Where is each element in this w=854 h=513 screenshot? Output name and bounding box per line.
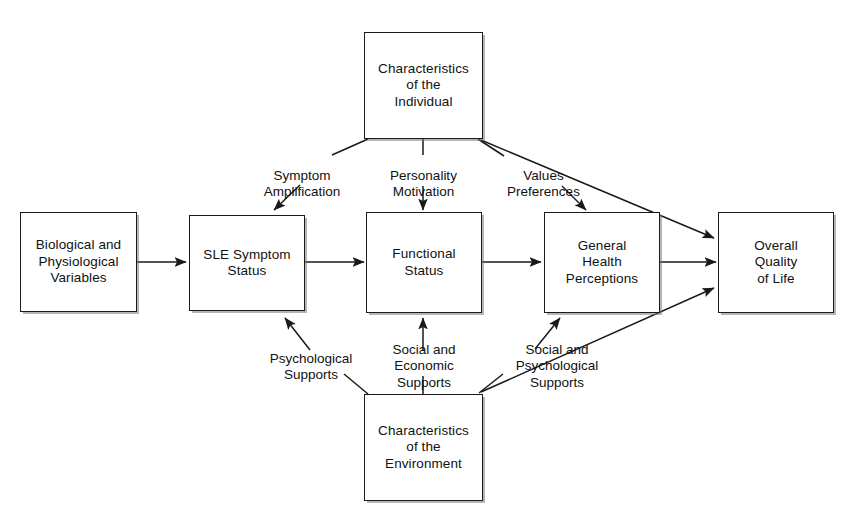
- edge-label-symptom-amplification: Symptom Amplification: [240, 151, 364, 201]
- node-label: Characteristics of the Individual: [375, 61, 472, 111]
- diagram-canvas: Biological and Physiological Variables S…: [0, 0, 854, 513]
- edge-label-social-and-psychological-supports: Social and Psychological Supports: [500, 325, 614, 391]
- node-label: General Health Perceptions: [563, 238, 641, 288]
- edge-label-personality-motivation: Personality Motivation: [370, 151, 477, 201]
- node-label: Overall Quality of Life: [751, 238, 800, 288]
- node-label: SLE Symptom Status: [200, 247, 293, 280]
- node-functional-status[interactable]: Functional Status: [366, 212, 482, 313]
- node-biological-and-physiological-variables[interactable]: Biological and Physiological Variables: [20, 212, 137, 312]
- edge-label-text: Symptom Amplification: [264, 168, 341, 200]
- node-sle-symptom-status[interactable]: SLE Symptom Status: [189, 215, 305, 311]
- node-characteristics-of-the-environment[interactable]: Characteristics of the Environment: [364, 394, 483, 501]
- node-label: Functional Status: [389, 246, 458, 279]
- edge-label-social-and-economic-supports: Social and Economic Supports: [378, 325, 470, 391]
- node-label: Characteristics of the Environment: [375, 423, 472, 473]
- node-general-health-perceptions[interactable]: General Health Perceptions: [544, 212, 660, 313]
- node-overall-quality-of-life[interactable]: Overall Quality of Life: [718, 212, 834, 313]
- node-characteristics-of-the-individual[interactable]: Characteristics of the Individual: [364, 32, 483, 139]
- edge-label-text: Values Preferences: [507, 168, 580, 200]
- edge-label-psychological-supports: Psychological Supports: [255, 334, 367, 384]
- edge-label-text: Personality Motivation: [390, 168, 457, 200]
- edge-label-text: Social and Economic Supports: [392, 342, 455, 390]
- edge-label-text: Social and Psychological Supports: [516, 342, 599, 390]
- node-label: Biological and Physiological Variables: [33, 237, 124, 287]
- edge-label-values-preferences: Values Preferences: [494, 151, 593, 201]
- edge-label-text: Psychological Supports: [270, 351, 353, 383]
